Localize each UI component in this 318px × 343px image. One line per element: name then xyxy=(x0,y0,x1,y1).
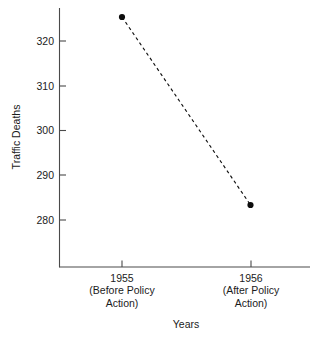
traffic-deaths-line-chart: 320 310 300 290 280 1955 (Before Policy … xyxy=(0,0,318,343)
series-connector-line xyxy=(122,17,251,205)
data-point-1955 xyxy=(119,14,125,20)
x-tick-label-1956: 1956 xyxy=(239,272,263,284)
chart-figure: 320 310 300 290 280 1955 (Before Policy … xyxy=(0,0,318,343)
y-tick-label-290: 290 xyxy=(36,169,54,181)
x-tick-sublabel-1955-line2: Action) xyxy=(106,297,139,309)
x-axis-title: Years xyxy=(173,318,199,330)
y-tick-label-300: 300 xyxy=(36,124,54,136)
y-tick-label-310: 310 xyxy=(36,80,54,92)
y-axis-title: Traffic Deaths xyxy=(10,105,22,170)
x-tick-label-1955: 1955 xyxy=(110,272,134,284)
y-tick-label-320: 320 xyxy=(36,35,54,47)
x-tick-sublabel-1955-line1: (Before Policy xyxy=(89,284,155,296)
x-tick-sublabel-1956-line1: (After Policy xyxy=(223,284,280,296)
data-point-1956 xyxy=(247,202,253,208)
x-tick-sublabel-1956-line2: Action) xyxy=(235,297,268,309)
y-tick-label-280: 280 xyxy=(36,214,54,226)
